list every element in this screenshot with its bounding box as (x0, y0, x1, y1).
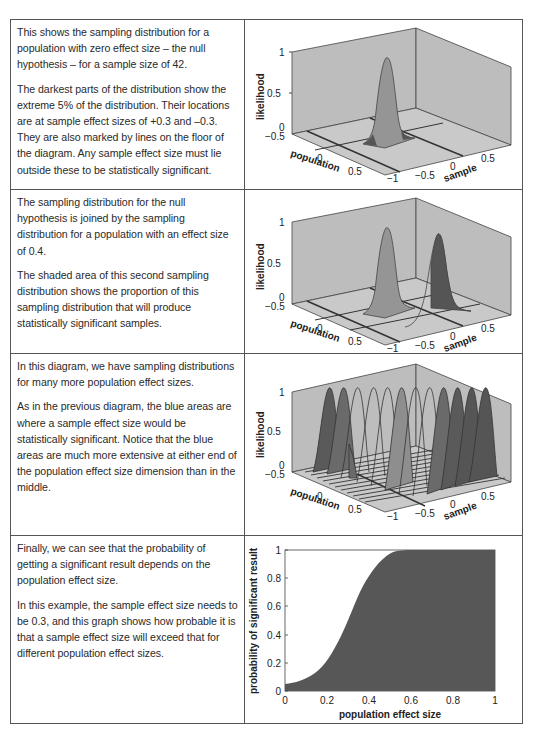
area-chart: 0 0.2 0.4 0.6 0.8 1 0 0.2 0.4 0.6 0.8 1 … (245, 536, 522, 723)
paragraph: In this example, the sample effect size … (17, 597, 238, 662)
svg-text:−0.5: −0.5 (265, 301, 285, 312)
svg-text:0.5: 0.5 (481, 491, 495, 502)
paragraph: The darkest parts of the distribution sh… (17, 81, 238, 178)
figure-probability-curve: 0 0.2 0.4 0.6 0.8 1 0 0.2 0.4 0.6 0.8 1 … (245, 536, 522, 723)
svg-text:1: 1 (275, 545, 281, 556)
svg-text:0.5: 0.5 (267, 426, 281, 437)
x-axis-label: population effect size (339, 709, 442, 720)
description-cell: In this diagram, we have sampling distri… (11, 354, 245, 535)
paragraph: This shows the sampling distribution for… (17, 24, 238, 73)
svg-text:sample: sample (442, 332, 479, 354)
svg-text:likelihood: likelihood (255, 243, 266, 290)
svg-text:1: 1 (279, 387, 285, 398)
svg-text:−0.5: −0.5 (265, 131, 285, 142)
svg-text:0.5: 0.5 (481, 323, 495, 334)
table-row-effect-0-4: The sampling distribution for the null h… (11, 190, 522, 354)
svg-text:1: 1 (492, 695, 498, 706)
svg-text:0.5: 0.5 (481, 153, 495, 164)
z-axis-label: likelihood (255, 73, 266, 120)
description-cell: Finally, we can see that the probability… (11, 536, 245, 723)
svg-text:1: 1 (279, 47, 285, 58)
sample-axis-label: sample (442, 162, 479, 184)
paragraph: Finally, we can see that the probability… (17, 540, 238, 589)
svg-text:−0.5: −0.5 (415, 170, 435, 181)
paragraph: In this diagram, we have sampling distri… (17, 358, 238, 390)
svg-text:sample: sample (442, 500, 479, 522)
table-row-probability: Finally, we can see that the probability… (11, 536, 522, 723)
svg-text:likelihood: likelihood (255, 411, 266, 458)
svg-text:0.5: 0.5 (267, 258, 281, 269)
description-cell: The sampling distribution for the null h… (11, 190, 245, 353)
3d-plot-two: 1 0.5 0 −0.5 0 0.5 −1 −0.5 0 0.5 likelih… (245, 190, 522, 354)
svg-text:0.6: 0.6 (267, 601, 281, 612)
explanation-table: This shows the sampling distribution for… (10, 19, 523, 724)
3d-plot-many: 1 0.5 0 −0.5 0 0.5 −1 −0.5 0 0.5 likelih… (245, 354, 522, 536)
table-row-null-hypothesis: This shows the sampling distribution for… (11, 20, 522, 190)
table-row-many-distributions: In this diagram, we have sampling distri… (11, 354, 522, 536)
svg-text:0.8: 0.8 (446, 695, 460, 706)
figure-null-distribution: 1 0.5 0 −0.5 0 0.5 −1 −0.5 0 0.5 likelih… (245, 20, 522, 189)
svg-text:0.5: 0.5 (348, 504, 362, 515)
svg-text:−0.5: −0.5 (415, 340, 435, 351)
y-axis-label: probability of significant result (248, 547, 259, 694)
svg-text:0.8: 0.8 (267, 573, 281, 584)
svg-text:0.2: 0.2 (320, 695, 334, 706)
figure-many-distributions: 1 0.5 0 −0.5 0 0.5 −1 −0.5 0 0.5 likelih… (245, 354, 522, 535)
3d-plot-null: 1 0.5 0 −0.5 0 0.5 −1 −0.5 0 0.5 likelih… (245, 20, 522, 190)
svg-text:0.5: 0.5 (267, 88, 281, 99)
figure-two-distributions: 1 0.5 0 −0.5 0 0.5 −1 −0.5 0 0.5 likelih… (245, 190, 522, 353)
svg-text:0.4: 0.4 (267, 630, 281, 641)
paragraph: As in the previous diagram, the blue are… (17, 398, 238, 495)
svg-text:1: 1 (279, 217, 285, 228)
svg-text:0.5: 0.5 (348, 166, 362, 177)
svg-text:0: 0 (275, 686, 281, 697)
svg-text:−0.5: −0.5 (415, 508, 435, 519)
paragraph: The shaded area of this second sampling … (17, 267, 238, 332)
svg-text:−1: −1 (387, 343, 399, 354)
svg-text:−1: −1 (387, 511, 399, 522)
svg-text:0.2: 0.2 (267, 658, 281, 669)
svg-text:−0.5: −0.5 (265, 469, 285, 480)
svg-text:0.4: 0.4 (362, 695, 376, 706)
svg-text:0: 0 (282, 695, 288, 706)
svg-text:0.6: 0.6 (404, 695, 418, 706)
svg-text:0.5: 0.5 (348, 336, 362, 347)
description-cell: This shows the sampling distribution for… (11, 20, 245, 189)
svg-text:−1: −1 (387, 173, 399, 184)
paragraph: The sampling distribution for the null h… (17, 194, 238, 259)
